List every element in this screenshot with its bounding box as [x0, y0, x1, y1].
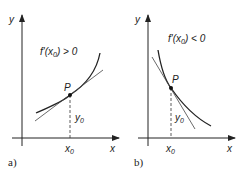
x-axis-label: x — [109, 143, 116, 154]
x0-label: x0 — [64, 143, 74, 155]
y0-label: y0 — [74, 112, 84, 124]
tangent-line — [152, 57, 195, 129]
condition-label: f'(x0) < 0 — [168, 33, 206, 45]
point-p-label: P — [172, 74, 179, 85]
panel-a: y x f'(x0) > 0 P y0 x0 a) — [8, 14, 119, 169]
panel-label: a) — [8, 156, 17, 169]
panel-b: y x f'(x0) < 0 P y0 x0 b) — [134, 14, 235, 169]
panel-label: b) — [134, 156, 144, 169]
point-p — [68, 93, 72, 97]
x-axis-label: x — [226, 143, 233, 154]
y-axis-label: y — [8, 14, 15, 25]
y-axis-label: y — [134, 14, 141, 25]
y0-label: y0 — [174, 112, 184, 124]
x0-label: x0 — [165, 143, 175, 155]
point-p-label: P — [64, 82, 71, 93]
derivative-diagram: y x f'(x0) > 0 P y0 x0 a) y x f'(x0) < 0… — [0, 0, 247, 172]
point-p — [169, 86, 173, 90]
condition-label: f'(x0) > 0 — [40, 46, 78, 58]
function-curve — [158, 50, 211, 126]
